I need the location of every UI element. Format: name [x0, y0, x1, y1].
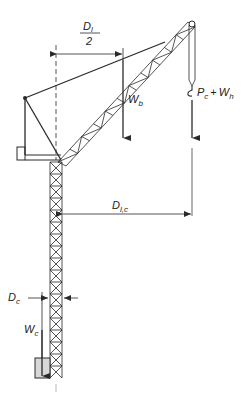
a-frame-pin	[23, 96, 27, 100]
load-radius-label: Dl,c	[112, 199, 128, 214]
jib-weight-label: Wb	[128, 93, 143, 108]
jib-half-dimension	[57, 48, 123, 60]
mast-width-dimension	[28, 292, 78, 358]
counterweight-label: Wc	[24, 323, 38, 338]
mast	[50, 162, 62, 378]
load-label: Pc+Wh	[197, 86, 234, 101]
crane-diagram: Dl 2 Wb Pc+Wh Dl,c Dc Wc	[0, 0, 247, 403]
a-frame	[25, 42, 165, 160]
hoist-rope	[188, 25, 195, 96]
jib-tip-sheave	[189, 21, 195, 27]
jib	[58, 22, 195, 166]
mast-width-label: Dc	[8, 291, 20, 306]
jib-half-den: 2	[85, 35, 92, 47]
jib-half-label: Dl	[83, 20, 93, 34]
